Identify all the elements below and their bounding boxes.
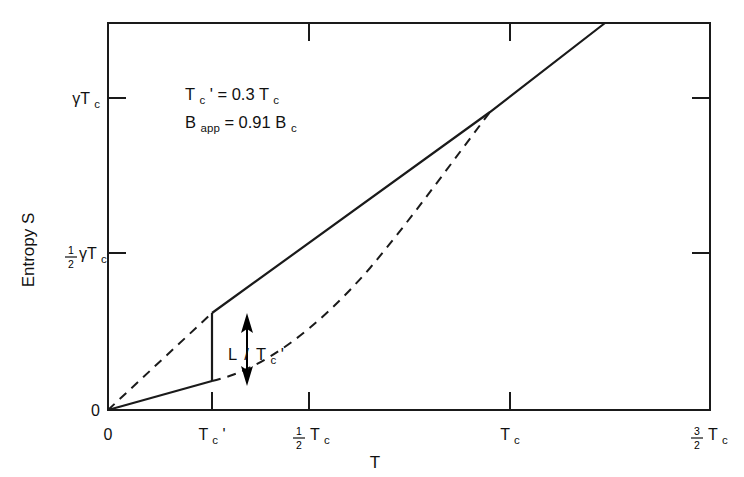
x-tick-label-tc-prime: T c ' <box>198 426 225 447</box>
y-tick-half-frac-numerator: 1 <box>68 244 74 256</box>
x-tick-label-three-halves-tc: 3 2 T c <box>691 425 728 451</box>
x-tick-three-halves-tc-symbol: T <box>708 426 718 443</box>
y-axis-ticks-right <box>692 98 710 253</box>
annot1-rest-sub: c <box>273 94 279 106</box>
x-tick-label-half-tc: 1 2 T c <box>293 425 330 451</box>
x-axis-ticks-bottom <box>212 392 510 410</box>
annotation-tc-prime-relation: T c ' = 0.3 T c <box>185 85 279 107</box>
x-tick-tc-prime-sub: c <box>212 434 218 446</box>
y-tick-gamma-tc-symbol: γT <box>72 90 90 107</box>
annot2-rest: = 0.91 B <box>224 113 286 131</box>
entropy-temperature-figure: L / T c ' T c ' = 0.3 T c B app = 0.91 B… <box>0 0 744 477</box>
x-tick-three-halves-frac-numerator: 3 <box>694 425 700 437</box>
y-tick-gamma-tc-sub: c <box>94 98 100 110</box>
latent-heat-denominator-prime: ' <box>281 345 284 363</box>
y-axis-title: Entropy S <box>19 213 38 288</box>
y-tick-label-half-gamma-tc: 1 2 γT c <box>65 244 107 270</box>
annot1-symbol: T <box>185 85 195 103</box>
x-tick-half-frac-numerator: 1 <box>296 425 302 437</box>
x-tick-tc-sub: c <box>514 434 520 446</box>
x-tick-half-tc-symbol-group: T c <box>310 426 330 446</box>
y-tick-half-gamma-tc-symbol: γT <box>79 245 97 262</box>
plot-frame <box>108 23 710 410</box>
y-tick-half-gamma-tc-sub: c <box>101 253 107 265</box>
x-tick-label-zero: 0 <box>104 426 113 443</box>
y-tick-half-gamma-tc-symbol-group: γT c <box>79 245 107 265</box>
dashed-branch-superconducting <box>212 112 490 381</box>
latent-heat-slash: / <box>244 345 249 363</box>
x-tick-tc-prime-symbol: T <box>198 426 208 443</box>
x-axis-ticks-top <box>309 23 510 41</box>
annot2-sub: app <box>201 122 220 134</box>
y-tick-label-zero: 0 <box>91 402 100 419</box>
annot1-rest: = 0.3 T <box>217 85 268 103</box>
latent-heat-denominator: T <box>256 345 266 363</box>
x-tick-half-tc-sub: c <box>324 434 330 446</box>
plot-canvas: L / T c ' T c ' = 0.3 T c B app = 0.91 B… <box>0 0 744 477</box>
latent-heat-denominator-sub: c <box>270 354 276 366</box>
x-tick-three-halves-frac-denominator: 2 <box>694 439 700 451</box>
y-axis-ticks-left <box>108 98 126 253</box>
y-tick-half-frac-denominator: 2 <box>68 258 74 270</box>
y-tick-label-gamma-tc: γT c <box>72 90 100 110</box>
x-tick-tc-symbol: T <box>500 426 510 443</box>
annot1-prime: ' <box>210 85 213 103</box>
annot1-sub: c <box>199 94 205 106</box>
annotation-b-app-relation: B app = 0.91 B c <box>185 113 297 135</box>
x-tick-tc-prime-prime: ' <box>223 426 226 443</box>
x-tick-half-tc-symbol: T <box>310 426 320 443</box>
solid-branch-high <box>212 23 605 313</box>
annot2-rest-sub: c <box>291 122 297 134</box>
latent-heat-label: L / T c ' <box>228 345 284 367</box>
annot2-symbol: B <box>185 113 196 131</box>
x-tick-half-frac-denominator: 2 <box>296 439 302 451</box>
x-tick-three-halves-tc-sub: c <box>722 434 728 446</box>
x-tick-three-halves-tc-symbol-group: T c <box>708 426 728 446</box>
latent-heat-numerator: L <box>228 345 237 363</box>
x-axis-title: T <box>370 453 380 472</box>
x-tick-label-tc: T c <box>500 426 520 446</box>
